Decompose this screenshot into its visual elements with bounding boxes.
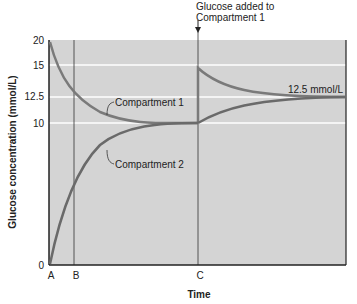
y-tick-20: 20: [33, 35, 45, 46]
compartment-2-label: Compartment 2: [115, 159, 184, 170]
arrow-down-icon: [195, 27, 201, 33]
final-value-label: 12.5 mmol/L: [288, 84, 343, 95]
y-tick-10: 10: [33, 118, 45, 129]
x-tick-a: A: [48, 270, 55, 281]
y-axis-title: Glucose concentration (mmol/L): [7, 75, 18, 228]
y-tick-0: 0: [38, 260, 44, 271]
annotation-line-1: Glucose added to: [196, 1, 275, 12]
y-tick-15: 15: [33, 60, 45, 71]
compartment-1-label: Compartment 1: [115, 97, 184, 108]
annotation-line-2: Compartment 1: [196, 12, 265, 23]
x-axis-title: Time: [187, 289, 211, 300]
x-tick-c: C: [196, 270, 203, 281]
x-tick-b: B: [73, 270, 80, 281]
y-tick-12-5: 12.5: [25, 91, 45, 102]
chart: 20 15 12.5 10 0 A B C Time Glucose conce…: [0, 0, 357, 304]
